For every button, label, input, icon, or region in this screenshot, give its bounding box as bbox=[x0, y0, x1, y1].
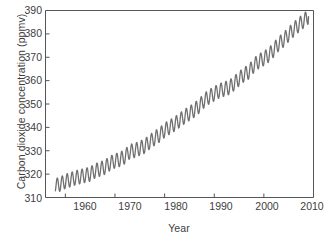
axis-frame bbox=[46, 11, 314, 198]
x-axis-ticks bbox=[65, 194, 264, 198]
plot-area bbox=[0, 0, 328, 245]
co2-concentration-chart: Carbon dioxide concentration (ppmv) Year… bbox=[0, 0, 328, 245]
data-series-co2 bbox=[55, 12, 308, 191]
y-axis-ticks bbox=[46, 34, 50, 174]
